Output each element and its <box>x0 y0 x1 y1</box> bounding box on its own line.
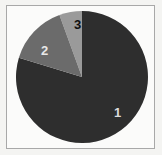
pie-slice-label-2: 2 <box>41 44 48 57</box>
pie-slice-label-1: 1 <box>114 106 121 119</box>
pie-plot-area: 1 2 3 <box>7 6 154 148</box>
pie-chart-figure: 1 2 3 <box>0 0 162 155</box>
pie-slice-label-3: 3 <box>74 18 81 31</box>
pie-slice-group <box>16 11 148 143</box>
